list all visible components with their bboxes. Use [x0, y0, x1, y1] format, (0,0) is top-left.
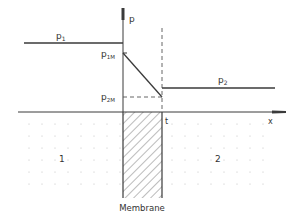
membrane-pressure-gradient — [123, 53, 162, 97]
p1-label: p1 — [56, 31, 66, 42]
membrane-label: Membrane — [119, 203, 165, 213]
p-axis-label: p — [129, 14, 135, 24]
p1M-label: p1M — [101, 49, 115, 60]
membrane-pressure-diagram: p x t p1 p2 p1M p2M 1 2 Membrane — [0, 0, 299, 217]
p2M-label: p2M — [101, 92, 115, 103]
thickness-label: t — [165, 117, 168, 126]
region-1-fill — [28, 116, 122, 194]
region-2-label: 2 — [215, 154, 221, 164]
region-1-label: 1 — [59, 154, 65, 164]
x-axis-label: x — [268, 117, 273, 126]
p-axis-arrow-icon — [122, 8, 125, 20]
membrane-hatch — [123, 112, 162, 198]
x-axis-arrow-icon — [272, 111, 286, 114]
p2-label: p2 — [218, 75, 228, 86]
